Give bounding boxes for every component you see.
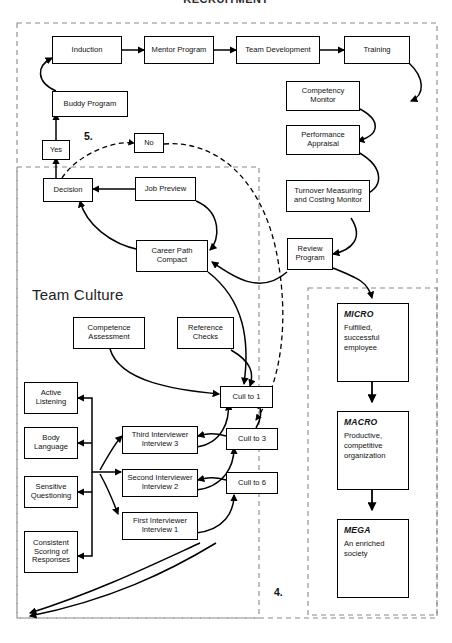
node-career-path-compact[interactable]: Career Path Compact bbox=[136, 240, 208, 272]
marker-4: 4. bbox=[274, 586, 283, 598]
node-cull-to-1[interactable]: Cull to 1 bbox=[220, 386, 273, 408]
node-induction[interactable]: Induction bbox=[52, 36, 122, 64]
node-training[interactable]: Training bbox=[344, 36, 410, 64]
node-sensitive-questioning[interactable]: Sensitive Questioning bbox=[24, 476, 78, 508]
node-outcome-mega[interactable]: MEGA An enriched society bbox=[337, 519, 409, 598]
node-second-interviewer[interactable]: Second Interviewer Interview 2 bbox=[122, 469, 198, 497]
node-cull-to-6[interactable]: Cull to 6 bbox=[226, 472, 278, 494]
node-competency-monitor[interactable]: Competency Monitor bbox=[286, 81, 360, 111]
node-outcome-macro[interactable]: MACRO Productive, competitive organizati… bbox=[337, 411, 409, 490]
node-buddy-program[interactable]: Buddy Program bbox=[52, 91, 128, 117]
node-reference-checks[interactable]: Reference Checks bbox=[177, 317, 234, 349]
node-turnover-monitor[interactable]: Turnover Measuring and Costing Monitor bbox=[286, 180, 370, 212]
node-mentor-program[interactable]: Mentor Program bbox=[144, 36, 214, 64]
node-first-interviewer[interactable]: First Interviewer Interview 1 bbox=[122, 512, 198, 540]
node-performance-appraisal[interactable]: Performance Appraisal bbox=[286, 125, 360, 155]
team-culture-caption: Team Culture bbox=[32, 286, 124, 303]
marker-5: 5. bbox=[84, 130, 93, 142]
node-body-language[interactable]: Body Language bbox=[24, 427, 78, 459]
node-no[interactable]: No bbox=[134, 133, 164, 153]
node-review-program[interactable]: Review Program bbox=[287, 238, 333, 270]
node-active-listening[interactable]: Active Listening bbox=[24, 382, 78, 414]
flowchart-diagram: RECRUITMENT bbox=[0, 0, 452, 643]
node-team-development[interactable]: Team Development bbox=[236, 36, 320, 64]
node-competence-assessment[interactable]: Competence Assessment bbox=[73, 317, 145, 349]
node-outcome-micro[interactable]: MICRO Fulfilled, successful employee bbox=[337, 303, 409, 382]
node-decision[interactable]: Decision bbox=[43, 178, 93, 202]
node-consistent-scoring[interactable]: Consistent Scoring of Responses bbox=[24, 531, 78, 573]
node-cull-to-3[interactable]: Cull to 3 bbox=[226, 428, 278, 450]
node-yes[interactable]: Yes bbox=[42, 140, 70, 160]
node-job-preview[interactable]: Job Preview bbox=[135, 177, 196, 201]
node-third-interviewer[interactable]: Third Interviewer Interview 3 bbox=[122, 426, 198, 454]
